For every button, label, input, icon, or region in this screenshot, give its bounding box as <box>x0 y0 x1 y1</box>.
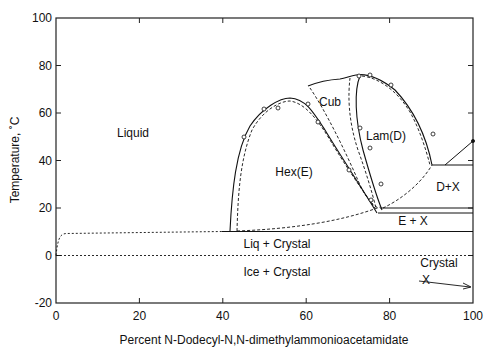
liq-crystal-curve <box>56 232 222 256</box>
plot-frame <box>56 18 473 303</box>
cub-lam-dashed <box>349 78 376 208</box>
svg-text:40: 40 <box>216 309 230 323</box>
svg-text:20: 20 <box>39 201 53 215</box>
y-tick-labels: 100 80 60 40 20 0 -20 <box>32 11 52 310</box>
region-label-crystal: Crystal <box>420 256 457 270</box>
x-axis-title: Percent N-Dodecyl-N,N-dimethylammonioace… <box>120 333 409 347</box>
region-label-x: X <box>422 273 430 287</box>
svg-text:80: 80 <box>39 59 53 73</box>
svg-text:80: 80 <box>383 309 397 323</box>
x-tick-labels: 0 20 40 60 80 100 <box>53 309 484 323</box>
svg-text:40: 40 <box>39 154 53 168</box>
x-axis-ticks <box>139 18 389 303</box>
region-label-lam: Lam(D) <box>366 129 406 143</box>
region-labels: Liquid Cub Lam(D) Hex(E) D+X E + X Liq +… <box>117 95 460 287</box>
svg-text:60: 60 <box>39 106 53 120</box>
crystal-melt-line <box>445 141 473 165</box>
region-label-hex: Hex(E) <box>275 165 312 179</box>
region-label-d-x: D+X <box>436 180 460 194</box>
phase-diagram: 100 80 60 40 20 0 -20 0 20 40 60 80 100 … <box>0 0 494 358</box>
cub-lam-upper-boundary <box>308 75 432 165</box>
region-label-e-x: E + X <box>398 214 428 228</box>
lam-right-dashed <box>362 76 430 165</box>
d-x-dashed <box>383 165 432 208</box>
hex-bottom-dashed <box>237 207 380 231</box>
svg-text:20: 20 <box>133 309 147 323</box>
y-axis-title: Temperature, ˚C <box>8 116 22 203</box>
region-label-liquid: Liquid <box>117 126 149 140</box>
region-label-liq-crystal: Liq + Crystal <box>243 237 310 251</box>
svg-text:-20: -20 <box>35 296 53 310</box>
svg-text:0: 0 <box>53 309 60 323</box>
svg-text:100: 100 <box>463 309 483 323</box>
region-label-cub: Cub <box>319 95 341 109</box>
lam-left-solid <box>356 76 382 210</box>
region-label-ice-crystal: Ice + Crystal <box>243 265 310 279</box>
svg-text:100: 100 <box>32 11 52 25</box>
svg-text:0: 0 <box>45 249 52 263</box>
svg-text:60: 60 <box>300 309 314 323</box>
